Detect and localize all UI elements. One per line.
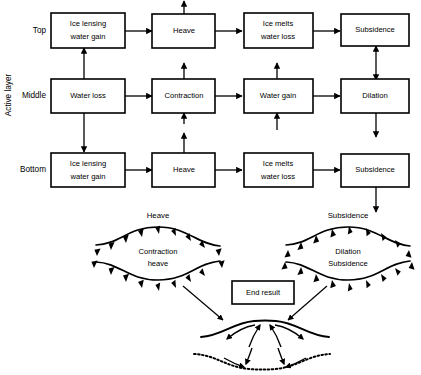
box-top-ice-lensing-line1: Ice lensing bbox=[70, 19, 106, 28]
end-result-solid-surface bbox=[201, 320, 329, 337]
arrow-result-lower-center-right-down bbox=[278, 348, 284, 364]
box-middle-dilation-label: Dilation bbox=[362, 91, 387, 100]
box-top-subsidence-label: Subsidence bbox=[355, 25, 395, 34]
arrow-result-center-left-up bbox=[249, 325, 260, 347]
box-top-ice-melts-line2: water loss bbox=[260, 32, 295, 41]
box-bottom-ice-lensing-line2: water gain bbox=[69, 172, 105, 181]
box-bottom-ice-melts-line2: water loss bbox=[260, 172, 295, 181]
end-result-figure bbox=[194, 320, 330, 369]
heave-lens-right-tick-arrows bbox=[216, 248, 225, 268]
box-middle-contraction-label: Contraction bbox=[165, 91, 204, 100]
heave-lens-inner-line2: heave bbox=[148, 259, 169, 268]
box-bottom-subsidence[interactable]: Subsidence bbox=[341, 154, 409, 187]
box-top-heave[interactable]: Heave bbox=[152, 14, 215, 48]
end-result-label: End result bbox=[246, 288, 281, 297]
process-diagram: Active layer Top Middle Bottom bbox=[0, 0, 421, 375]
arrow-result-lower-center-left-down bbox=[246, 348, 252, 364]
subsidence-lens-left-tick-arrows bbox=[281, 250, 290, 269]
box-middle-dilation[interactable]: Dilation bbox=[341, 79, 409, 113]
box-top-subsidence[interactable]: Subsidence bbox=[341, 14, 409, 46]
box-middle-water-gain[interactable]: Water gain bbox=[244, 79, 313, 113]
row-label-middle: Middle bbox=[22, 91, 47, 100]
heave-lens-title: Heave bbox=[147, 211, 170, 220]
box-middle-water-gain-label: Water gain bbox=[260, 91, 296, 100]
subsidence-lens-upper-curve bbox=[286, 227, 410, 246]
box-top-ice-melts-line1: Ice melts bbox=[263, 19, 294, 28]
arrow-heave-lens-to-end-result bbox=[183, 286, 223, 320]
arrow-result-lower-right-inward bbox=[286, 358, 306, 367]
box-bottom-ice-lensing-line1: Ice lensing bbox=[70, 159, 106, 168]
subsidence-lens-inner-line2: Subsidence bbox=[328, 259, 368, 268]
box-middle-contraction[interactable]: Contraction bbox=[152, 79, 215, 113]
arrow-result-center-right-up bbox=[270, 325, 281, 347]
end-result-dotted-surface bbox=[194, 354, 330, 370]
subsidence-lens-right-tick-arrows bbox=[406, 250, 415, 270]
row-label-top: Top bbox=[33, 26, 47, 35]
box-bottom-ice-melts-line1: Ice melts bbox=[263, 159, 294, 168]
row-label-bottom: Bottom bbox=[20, 165, 46, 174]
box-bottom-heave-label: Heave bbox=[173, 165, 195, 174]
box-top-ice-lensing[interactable]: Ice lensing water gain bbox=[51, 13, 125, 48]
box-bottom-heave[interactable]: Heave bbox=[152, 153, 215, 187]
heave-lens-figure: Heave bbox=[91, 211, 224, 291]
diagram-canvas: Active layer Top Middle Bottom bbox=[0, 0, 421, 375]
heave-lens-inner-line1: Contraction bbox=[139, 247, 178, 256]
axis-label-text: Active layer bbox=[4, 74, 13, 117]
box-bottom-subsidence-label: Subsidence bbox=[355, 165, 395, 174]
box-top-ice-lensing-line2: water gain bbox=[69, 32, 105, 41]
subsidence-lens-figure: Subsidence bbox=[281, 211, 414, 291]
box-bottom-ice-lensing[interactable]: Ice lensing water gain bbox=[51, 153, 125, 187]
box-middle-water-loss[interactable]: Water loss bbox=[51, 79, 125, 113]
subsidence-lens-inner-line1: Dilation bbox=[335, 247, 360, 256]
active-layer-axis-label: Active layer bbox=[4, 74, 13, 117]
end-result-box[interactable]: End result bbox=[232, 281, 294, 304]
box-top-ice-melts[interactable]: Ice melts water loss bbox=[244, 13, 313, 48]
heave-lens-left-tick-arrows bbox=[91, 249, 100, 268]
box-bottom-ice-melts[interactable]: Ice melts water loss bbox=[244, 153, 313, 187]
subsidence-lens-title: Subsidence bbox=[328, 211, 369, 220]
box-top-heave-label: Heave bbox=[173, 26, 195, 35]
box-middle-water-loss-label: Water loss bbox=[70, 91, 106, 100]
